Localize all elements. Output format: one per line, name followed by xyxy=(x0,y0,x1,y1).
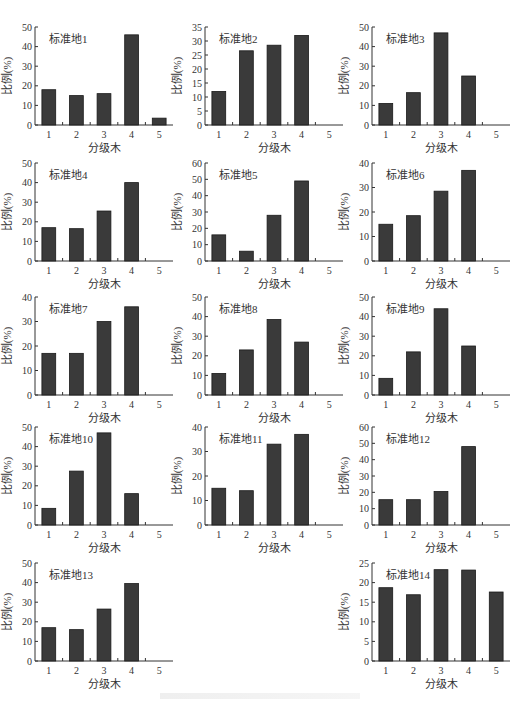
bar xyxy=(240,350,254,395)
chart-title: 标准地8 xyxy=(219,302,258,315)
x-tick-label: 4 xyxy=(129,265,134,276)
bar xyxy=(97,94,111,125)
bar-chart-5: 010203040506012345标准地5分级木比例(%) xyxy=(170,143,353,295)
bar xyxy=(42,628,56,661)
y-tick-label: 40 xyxy=(22,292,32,303)
y-tick-label: 50 xyxy=(192,174,202,185)
bar xyxy=(379,224,393,261)
y-tick-label: 30 xyxy=(192,446,202,457)
bar xyxy=(462,170,476,261)
x-tick-label: 5 xyxy=(157,665,162,676)
y-tick-label: 30 xyxy=(22,597,32,608)
x-tick-label: 5 xyxy=(157,265,162,276)
y-tick-label: 0 xyxy=(364,520,369,531)
y-tick-label: 0 xyxy=(27,656,32,667)
bar xyxy=(152,118,166,125)
x-tick-label: 2 xyxy=(411,665,416,676)
bar xyxy=(42,228,56,261)
x-tick-label: 5 xyxy=(157,529,162,540)
y-tick-label: 0 xyxy=(364,656,369,667)
y-tick-label: 50 xyxy=(22,558,32,569)
bar xyxy=(462,346,476,395)
x-tick-label: 1 xyxy=(216,265,221,276)
chart-title: 标准地14 xyxy=(386,568,431,581)
y-tick-label: 10 xyxy=(359,231,369,242)
y-tick-label: 0 xyxy=(197,256,202,267)
y-axis-label: 比例(%) xyxy=(337,56,351,95)
y-tick-label: 50 xyxy=(192,292,202,303)
y-tick-label: 30 xyxy=(22,61,32,72)
bar-chart-2: 0510152025303512345标准地2分级木比例(%) xyxy=(170,7,353,159)
x-tick-label: 4 xyxy=(129,665,134,676)
bar xyxy=(240,51,254,125)
y-tick-label: 40 xyxy=(192,190,202,201)
bar xyxy=(42,353,56,395)
bar xyxy=(42,90,56,125)
y-tick-label: 40 xyxy=(192,422,202,433)
x-tick-label: 1 xyxy=(216,129,221,140)
y-tick-label: 0 xyxy=(197,120,202,131)
y-tick-label: 20 xyxy=(192,64,202,75)
y-axis-label: 比例(%) xyxy=(337,456,351,495)
y-tick-label: 20 xyxy=(192,223,202,234)
y-tick-label: 40 xyxy=(192,311,202,322)
y-tick-label: 0 xyxy=(364,256,369,267)
bar xyxy=(212,91,226,125)
x-tick-label: 3 xyxy=(439,265,444,276)
x-tick-label: 4 xyxy=(299,265,304,276)
bar xyxy=(462,447,476,525)
x-tick-label: 5 xyxy=(327,265,332,276)
y-tick-label: 30 xyxy=(192,36,202,47)
chart-title: 标准地12 xyxy=(386,432,430,445)
x-axis-label: 分级木 xyxy=(88,678,121,690)
x-tick-label: 4 xyxy=(129,529,134,540)
bar xyxy=(97,211,111,261)
x-tick-label: 3 xyxy=(102,665,107,676)
bar xyxy=(240,491,254,525)
x-tick-label: 5 xyxy=(494,129,499,140)
bar-chart-4: 0102030405012345标准地4分级木比例(%) xyxy=(0,143,183,295)
x-tick-label: 4 xyxy=(466,129,471,140)
bar xyxy=(434,191,448,261)
y-tick-label: 30 xyxy=(22,316,32,327)
y-axis-label: 比例(%) xyxy=(170,56,184,95)
x-tick-label: 2 xyxy=(411,129,416,140)
bar xyxy=(407,352,421,395)
bar xyxy=(70,353,84,395)
bar xyxy=(379,378,393,395)
bar xyxy=(489,592,503,661)
y-tick-label: 35 xyxy=(192,22,202,33)
y-tick-label: 15 xyxy=(359,597,369,608)
bar xyxy=(97,322,111,396)
bar xyxy=(97,609,111,661)
x-tick-label: 1 xyxy=(46,129,51,140)
bar xyxy=(212,488,226,525)
bar xyxy=(125,183,139,261)
bar xyxy=(240,251,254,261)
bar xyxy=(70,471,84,525)
bar xyxy=(267,45,281,125)
bar xyxy=(434,492,448,525)
y-tick-label: 20 xyxy=(359,207,369,218)
bar-chart-11: 01020304012345标准地11分级木比例(%) xyxy=(170,407,353,559)
x-tick-label: 4 xyxy=(466,265,471,276)
y-tick-label: 20 xyxy=(359,80,369,91)
y-tick-label: 10 xyxy=(359,100,369,111)
x-tick-label: 4 xyxy=(466,529,471,540)
y-tick-label: 0 xyxy=(364,390,369,401)
chart-title: 标准地2 xyxy=(219,32,258,45)
chart-title: 标准地7 xyxy=(49,302,88,315)
x-axis-label: 分级木 xyxy=(425,678,458,690)
y-tick-label: 10 xyxy=(359,503,369,514)
bar-chart-13: 0102030405012345标准地13分级木比例(%) xyxy=(0,543,183,695)
x-axis-label: 分级木 xyxy=(258,542,291,554)
x-tick-label: 1 xyxy=(383,529,388,540)
y-tick-label: 10 xyxy=(22,100,32,111)
y-tick-label: 40 xyxy=(22,577,32,588)
bar xyxy=(295,434,309,525)
y-tick-label: 20 xyxy=(22,616,32,627)
x-tick-label: 4 xyxy=(299,529,304,540)
bar xyxy=(212,235,226,261)
y-tick-label: 40 xyxy=(22,41,32,52)
y-tick-label: 50 xyxy=(22,158,32,169)
